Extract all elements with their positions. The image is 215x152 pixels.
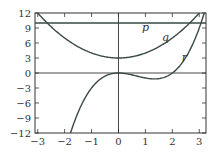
curves [35, 5, 206, 152]
y-tick-label: 3 [25, 53, 31, 64]
y-tick-label: 12 [18, 8, 31, 19]
y-tick-label: −3 [16, 83, 31, 94]
x-tick-label: 3 [196, 136, 202, 147]
curve-labels: pqr [142, 21, 188, 64]
curve-r [35, 7, 206, 152]
x-tick-label: −2 [57, 136, 72, 147]
curve-label-r: r [182, 51, 188, 64]
chart: −3−2−10123−12−9−6−3036912 pqr [0, 0, 215, 152]
x-tick-label: 0 [115, 136, 121, 147]
y-tick-label: −12 [10, 128, 31, 139]
y-tick-label: 0 [25, 68, 31, 79]
tick-labels: −3−2−10123−12−9−6−3036912 [10, 8, 203, 148]
y-tick-label: 9 [25, 23, 31, 34]
x-tick-label: −3 [30, 136, 45, 147]
y-tick-label: −9 [16, 113, 31, 124]
x-tick-label: 2 [169, 136, 175, 147]
y-tick-label: −6 [16, 98, 31, 109]
x-tick-label: −1 [84, 136, 99, 147]
x-tick-label: 1 [142, 136, 148, 147]
curve-label-q: q [162, 31, 169, 44]
curve-label-p: p [142, 21, 149, 34]
y-tick-label: 6 [25, 38, 31, 49]
